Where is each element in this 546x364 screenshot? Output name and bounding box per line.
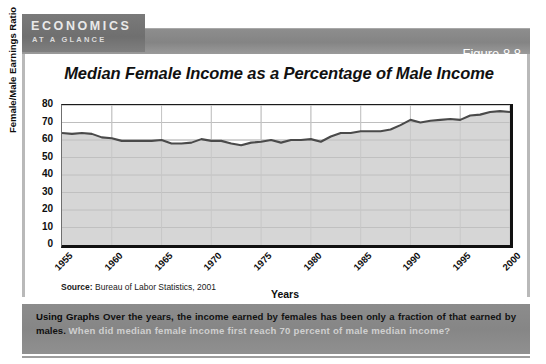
x-tick-label: 1975 [245, 250, 274, 279]
y-tick-label: 40 [27, 169, 53, 179]
x-tick-label: 1955 [46, 250, 75, 279]
y-tick-label: 10 [27, 222, 53, 232]
x-tick-label: 1985 [344, 250, 373, 279]
y-axis-title: Female/Male Earnings Ratio [7, 0, 18, 140]
caption-lead: Using Graphs [36, 311, 100, 322]
y-tick-label: 20 [27, 204, 53, 214]
caption-underline [22, 356, 530, 358]
brand-tab: ECONOMICS AT A GLANCE [22, 14, 145, 52]
plot-area [61, 104, 513, 248]
y-tick-label: 30 [27, 187, 53, 197]
source-note: Source: Bureau of Labor Statistics, 2001 [61, 282, 216, 292]
x-tick-label: 1965 [145, 250, 174, 279]
figure-banner: Figure 8.8 ECONOMICS AT A GLANCE [22, 14, 530, 54]
y-tick-label: 50 [27, 152, 53, 162]
caption-question: When did median female income first reac… [69, 325, 451, 336]
x-tick-label: 1995 [444, 250, 473, 279]
y-tick-label: 60 [27, 134, 53, 144]
figure-caption: Using Graphs Over the years, the income … [22, 304, 530, 354]
x-tick-label: 1980 [295, 250, 324, 279]
x-tick-label: 2000 [494, 250, 523, 279]
plot-wrapper: Female/Male Earnings Ratio 0102030405060… [61, 104, 509, 244]
chart-svg [62, 105, 510, 245]
chart-title: Median Female Income as a Percentage of … [25, 64, 533, 83]
y-tick-label: 80 [27, 99, 53, 109]
brand-subtitle: AT A GLANCE [32, 35, 106, 44]
source-prefix: Source: [61, 282, 93, 292]
x-tick-label: 1970 [195, 250, 224, 279]
series-area [62, 111, 510, 245]
x-tick-label: 1990 [394, 250, 423, 279]
source-text: Bureau of Labor Statistics, 2001 [95, 282, 216, 292]
figure-root: Figure 8.8 ECONOMICS AT A GLANCE Median … [0, 0, 546, 364]
y-axis-ticks: 01020304050607080 [27, 104, 57, 244]
y-tick-label: 70 [27, 117, 53, 127]
brand-title: ECONOMICS [31, 19, 132, 33]
y-tick-label: 0 [27, 239, 53, 249]
chart-panel: Median Female Income as a Percentage of … [22, 54, 530, 297]
x-tick-label: 1960 [96, 250, 125, 279]
